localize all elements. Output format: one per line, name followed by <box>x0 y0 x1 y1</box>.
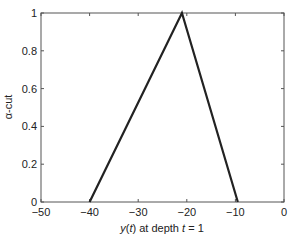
x-tick-label: −40 <box>80 206 99 218</box>
x-axis-ticks: −50−40−30−20−100 <box>32 13 287 218</box>
x-tick-label: −20 <box>177 206 196 218</box>
y-tick-label: 0.6 <box>22 83 37 95</box>
x-tick-label: −10 <box>226 206 245 218</box>
chart-canvas: −50−40−30−20−100 00.20.40.60.81 y(t) at … <box>0 0 298 245</box>
x-axis-label: y(t) at depth t = 1 <box>119 222 204 234</box>
y-tick-label: 0.2 <box>22 158 37 170</box>
plot-frame <box>41 13 284 202</box>
x-tick-label: 0 <box>281 206 287 218</box>
y-axis-ticks: 00.20.40.60.81 <box>22 7 284 208</box>
y-tick-label: 1 <box>31 7 37 19</box>
membership-line <box>90 13 238 202</box>
y-axis-label: α-cut <box>2 95 14 120</box>
x-tick-label: −30 <box>129 206 148 218</box>
y-tick-label: 0.4 <box>22 120 37 132</box>
y-tick-label: 0.8 <box>22 45 37 57</box>
y-tick-label: 0 <box>31 196 37 208</box>
